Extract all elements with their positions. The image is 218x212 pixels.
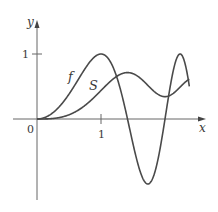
y-tick-1-label: 1 bbox=[22, 48, 29, 61]
origin-label: 0 bbox=[27, 123, 34, 136]
chart: y x 0 1 1 f S bbox=[0, 0, 218, 212]
x-tick-1-label: 1 bbox=[98, 128, 105, 141]
y-axis-arrow-icon bbox=[35, 20, 40, 28]
curve-s-label: S bbox=[89, 78, 98, 93]
x-axis-label: x bbox=[199, 121, 206, 135]
curve-f-label: f bbox=[67, 69, 75, 84]
y-axis-label: y bbox=[26, 15, 34, 29]
